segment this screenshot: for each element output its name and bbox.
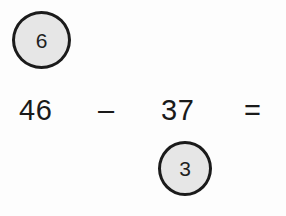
regroup-circle-top: 6 <box>12 11 71 69</box>
minuend-number: 46 <box>19 96 52 125</box>
regroup-circle-top-digit: 6 <box>36 29 48 50</box>
regroup-circle-bottom: 3 <box>158 141 212 196</box>
subtrahend-number: 37 <box>161 96 194 125</box>
minus-operator-icon: – <box>98 96 115 125</box>
regroup-circle-bottom-digit: 3 <box>179 158 191 179</box>
equals-operator-icon: = <box>244 96 261 125</box>
math-worksheet-problem: 6 46 – 37 = 3 <box>0 0 286 216</box>
